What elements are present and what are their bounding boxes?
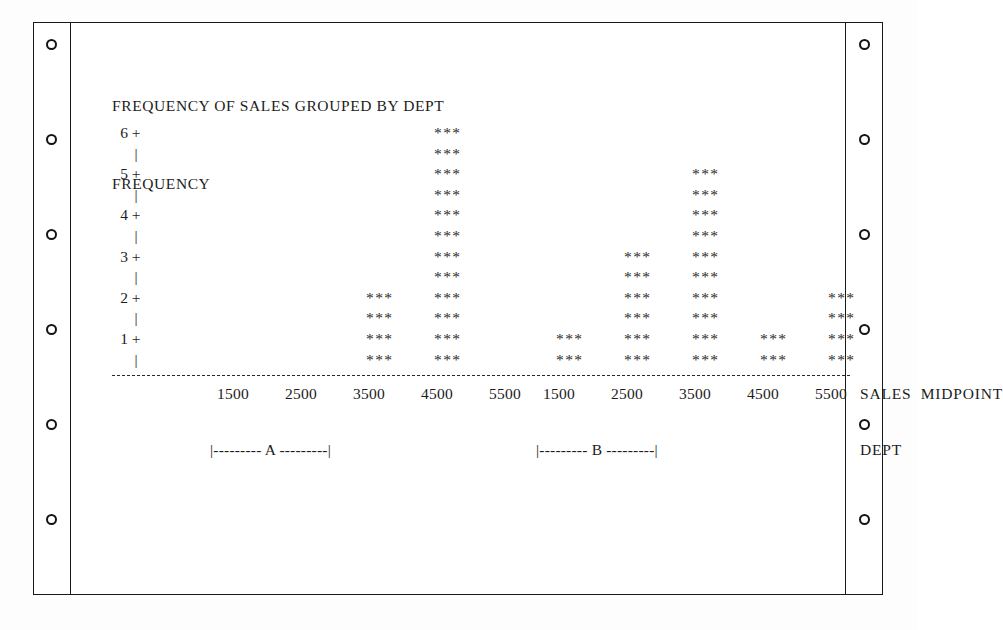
star-row: ***************	[158, 308, 852, 329]
star-cell: ***	[692, 247, 719, 268]
x-axis-tick-labels: SALES MIDPOINT 1500250035004500550015002…	[112, 385, 852, 411]
star-cell: ***	[692, 226, 719, 247]
y-stem-mark: |	[128, 185, 144, 206]
star-cell: ***	[692, 205, 719, 226]
star-cell: ***	[624, 329, 651, 350]
dept-bracket-row: |--------- B ---------||--------- A ----…	[112, 441, 852, 469]
y-axis-tick: 4+	[112, 205, 158, 226]
y-tick-mark: +	[128, 247, 144, 268]
y-tick-value: 3	[112, 247, 128, 268]
y-tick-mark: +	[128, 123, 144, 144]
star-cell: ***	[828, 350, 855, 371]
y-stem-mark: |	[128, 308, 144, 329]
x-tick-label: 5500	[485, 385, 525, 403]
y-axis-stem: |	[112, 226, 158, 247]
star-cell: ***	[434, 185, 461, 206]
star-cell: ***	[692, 308, 719, 329]
sprocket-hole	[46, 39, 57, 50]
star-cell: ***	[692, 288, 719, 309]
star-row: ******	[158, 185, 852, 206]
y-axis: 6+|5+|4+|3+|2+|1+|	[112, 123, 158, 373]
y-tick-mark: +	[128, 205, 144, 226]
star-row: *********	[158, 267, 852, 288]
y-stem-mark: |	[128, 267, 144, 288]
star-cell: ***	[434, 267, 461, 288]
perforation-line-left	[70, 23, 71, 594]
y-axis-stem: |	[112, 267, 158, 288]
y-tick-value: 1	[112, 329, 128, 350]
y-tick-value: 2	[112, 288, 128, 309]
y-axis-stem: |	[112, 185, 158, 206]
y-axis-stem: |	[112, 350, 158, 371]
star-cell: ***	[434, 123, 461, 144]
y-stem-mark: |	[128, 226, 144, 247]
y-axis-stem: |	[112, 144, 158, 165]
star-cell: ***	[434, 226, 461, 247]
y-tick-mark: +	[128, 288, 144, 309]
y-axis-tick: 6+	[112, 123, 158, 144]
histogram-plot: 6+|5+|4+|3+|2+|1+| *********************…	[112, 123, 852, 373]
sprocket-hole	[46, 229, 57, 240]
sprocket-hole	[46, 514, 57, 525]
star-row: ******	[158, 164, 852, 185]
star-cell: ***	[760, 329, 787, 350]
y-tick-mark: +	[128, 164, 144, 185]
star-cell: ***	[624, 267, 651, 288]
star-grid: ****************************************…	[158, 123, 852, 373]
y-stem-mark: |	[128, 144, 144, 165]
y-tick-value: 4	[112, 205, 128, 226]
star-cell: ***	[434, 205, 461, 226]
star-cell: ***	[434, 350, 461, 371]
sprocket-hole	[46, 419, 57, 430]
x-tick-label: 1500	[539, 385, 579, 403]
x-tick-label: 3500	[349, 385, 389, 403]
y-stem-mark: |	[128, 350, 144, 371]
star-row: ***************	[158, 288, 852, 309]
star-cell: ***	[434, 247, 461, 268]
x-tick-label: 2500	[281, 385, 321, 403]
y-tick-value: 5	[112, 164, 128, 185]
y-axis-tick: 5+	[112, 164, 158, 185]
y-tick-mark: +	[128, 329, 144, 350]
star-cell: ***	[624, 288, 651, 309]
star-cell: ***	[556, 350, 583, 371]
x-tick-label: 3500	[675, 385, 715, 403]
star-cell: ***	[366, 308, 393, 329]
sprocket-hole	[859, 324, 870, 335]
sprocket-hole	[859, 39, 870, 50]
sprocket-hole	[46, 134, 57, 145]
sprocket-hole	[859, 514, 870, 525]
star-cell: ***	[692, 267, 719, 288]
star-cell: ***	[692, 185, 719, 206]
x-tick-label: 4500	[417, 385, 457, 403]
sprocket-hole	[859, 134, 870, 145]
star-row: *********************	[158, 350, 852, 371]
star-row: *********	[158, 247, 852, 268]
star-cell: ***	[692, 329, 719, 350]
star-cell: ***	[624, 308, 651, 329]
x-tick-label: 2500	[607, 385, 647, 403]
star-cell: ***	[556, 329, 583, 350]
star-cell: ***	[760, 350, 787, 371]
star-cell: ***	[692, 350, 719, 371]
star-row: ******	[158, 205, 852, 226]
sprocket-hole	[859, 419, 870, 430]
star-cell: ***	[434, 288, 461, 309]
sprocket-hole	[859, 229, 870, 240]
y-axis-stem: |	[112, 308, 158, 329]
star-cell: ***	[434, 308, 461, 329]
x-tick-label: 1500	[213, 385, 253, 403]
star-cell: ***	[692, 164, 719, 185]
star-cell: ***	[624, 247, 651, 268]
y-axis-tick: 2+	[112, 288, 158, 309]
star-row: ***	[158, 144, 852, 165]
printed-report: FREQUENCY OF SALES GROUPED BY DEPT FREQU…	[104, 23, 850, 596]
x-axis-caption: SALES MIDPOINT	[860, 385, 1003, 403]
dept-bracket-b: |--------- B ---------|	[536, 441, 658, 459]
x-tick-label: 4500	[743, 385, 783, 403]
star-row: ******	[158, 226, 852, 247]
star-cell: ***	[366, 288, 393, 309]
sprocket-hole	[46, 324, 57, 335]
star-cell: ***	[434, 144, 461, 165]
